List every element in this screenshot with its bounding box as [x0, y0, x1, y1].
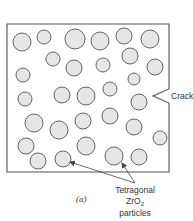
zro2-particle [102, 108, 118, 124]
zro2-particle [103, 82, 117, 96]
zro2-particle [105, 147, 123, 165]
figure-caption-label: (a) [76, 194, 87, 204]
zro2-particle [131, 94, 147, 110]
zro2-particle [18, 92, 32, 106]
zro2-particle [131, 149, 147, 165]
zro2-particle [122, 48, 138, 64]
zro2-particle [153, 131, 167, 145]
zro2-particle [50, 121, 68, 139]
zro2-particle [16, 68, 30, 82]
particles-label-line1: Tetragonal [115, 185, 155, 195]
zro2-particle [25, 114, 43, 132]
zro2-particle [77, 137, 95, 155]
particles-label-line3: particles [119, 208, 151, 218]
particles-label-line2: ZrO2 [126, 196, 145, 207]
zro2-particle [128, 73, 140, 85]
zro2-particle [55, 151, 71, 167]
zro2-particle [141, 30, 159, 48]
zro2-particle [96, 58, 110, 72]
zro2-particle [75, 113, 91, 129]
zro2-particle [30, 153, 46, 169]
zro2-particle [66, 60, 82, 76]
zro2-particle [91, 32, 109, 50]
zro2-particle [37, 30, 51, 44]
zro2-particle [46, 52, 60, 66]
pointer-arrow [122, 163, 135, 183]
tetragonal-zro2-particles [13, 28, 167, 169]
crack-label: Crack [171, 91, 193, 101]
zro2-particle [54, 87, 70, 103]
zro2-particle [126, 119, 142, 135]
zro2-subscript: 2 [141, 201, 145, 207]
zro2-particle [13, 33, 31, 51]
zro2-particle [147, 59, 163, 75]
zro2-particle [116, 28, 132, 44]
zro2-particle [77, 87, 95, 105]
zro2-formula: ZrO [126, 196, 141, 206]
zro2-particle [18, 138, 34, 154]
zro2-transformation-toughening-diagram: Crack (a) Tetragonal ZrO2 particles [0, 0, 193, 221]
zro2-particle [65, 29, 85, 49]
